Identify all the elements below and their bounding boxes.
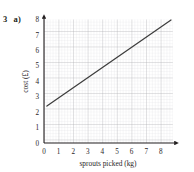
line-chart-figure: 0 1 2 3 4 5 6 7 8 0 1 2 3 4 5 6 7 8 cost… — [0, 0, 194, 172]
x-tick-labels: 0 1 2 3 4 5 6 7 8 — [42, 148, 163, 156]
x-tick-label: 8 — [159, 148, 163, 156]
x-tick-label: 2 — [71, 148, 75, 156]
y-tick-label: 7 — [35, 32, 39, 40]
x-tick-label: 0 — [42, 148, 46, 156]
x-tick-label: 5 — [115, 148, 119, 156]
chart-svg: 0 1 2 3 4 5 6 7 8 0 1 2 3 4 5 6 7 8 cost… — [0, 0, 194, 172]
y-tick-label: 5 — [35, 62, 39, 70]
y-tick-label: 6 — [35, 47, 39, 55]
y-tick-label: 0 — [35, 140, 39, 148]
y-tick-label: 8 — [35, 16, 39, 24]
x-tick-label: 3 — [86, 148, 90, 156]
y-tick-label: 1 — [35, 124, 39, 132]
y-tick-label: 3 — [35, 93, 39, 101]
x-tick-label: 7 — [144, 148, 148, 156]
y-tick-label: 2 — [35, 109, 39, 117]
x-tick-label: 6 — [130, 148, 134, 156]
y-axis-title: cost (£) — [21, 70, 30, 93]
y-tick-label: 4 — [35, 78, 39, 86]
y-tick-labels: 0 1 2 3 4 5 6 7 8 — [35, 16, 39, 148]
x-tick-label: 4 — [101, 148, 105, 156]
x-tick-label: 1 — [57, 148, 61, 156]
plot-grid — [44, 20, 173, 144]
x-axis-title: sprouts picked (kg) — [79, 159, 137, 168]
